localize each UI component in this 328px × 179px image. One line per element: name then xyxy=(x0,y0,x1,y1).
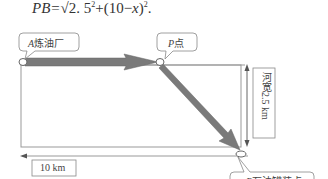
river-rectangle xyxy=(21,65,241,147)
point-p xyxy=(156,59,164,66)
callout-b-label: B石油罐装点 xyxy=(246,173,302,179)
width-label: 河宽2.5 km xyxy=(258,72,273,120)
point-a xyxy=(19,59,27,66)
down-arrowhead-icon xyxy=(245,140,250,147)
callout-p-label: P点 xyxy=(168,35,184,50)
point-b xyxy=(236,151,246,157)
a-to-p-arrow xyxy=(25,54,158,70)
p-to-b-arrow xyxy=(159,64,240,150)
left-arrowhead-icon xyxy=(20,154,27,159)
up-arrowhead-icon xyxy=(245,64,250,71)
callout-a-label: A炼油厂 xyxy=(28,35,64,50)
diagram-canvas xyxy=(0,0,328,179)
length-label: 10 km xyxy=(40,162,65,173)
